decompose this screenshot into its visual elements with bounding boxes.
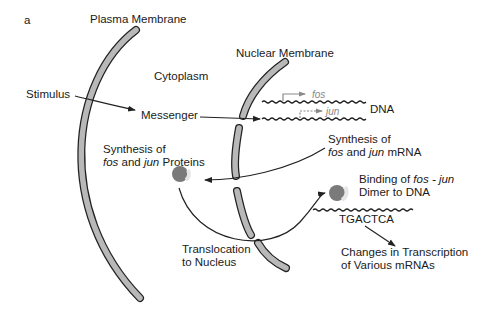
panel-label: a [24,14,30,27]
nuclear-membrane [235,62,286,268]
plasma-membrane-label: Plasma Membrane [90,13,187,26]
mrna-to-protein-arrow [205,148,325,180]
nuclear-membrane-label: Nuclear Membrane [236,47,334,60]
dna-label: DNA [370,103,394,116]
and-text: and [343,146,369,158]
translocation-line2: to Nucleus [182,256,251,269]
changes-arrow [365,226,395,246]
jun-gene-label: jun [326,105,339,118]
jun-text: jun [144,156,159,168]
fos-text: fos [103,156,118,168]
stimulus-label: Stimulus [26,88,70,101]
cytoplasm-label: Cytoplasm [154,70,208,83]
protein-synthesis-line1: Synthesis of [103,143,205,156]
and-text: and [118,156,144,168]
translocation-arrow [180,188,338,236]
fos-jun-text: fos - jun [413,173,454,185]
sequence-label: TGACTCA [339,213,394,226]
jun-text: jun [369,146,384,158]
fos-gene-label: fos [312,88,325,101]
fos-jun-signaling-diagram: a Plasma Membrane Nuclear Membrane Cytop… [0,0,483,320]
mrna-synthesis-line1: Synthesis of [328,133,421,146]
translocation-line1: Translocation [182,243,251,256]
protein-dimer [329,185,347,201]
mrna-text: mRNA [384,146,421,158]
mrna-synthesis-line2: fos and jun mRNA [328,146,421,159]
changes-line2: of Various mRNAs [341,259,468,272]
binding-prefix: Binding of [359,173,413,185]
changes-label: Changes in Transcription of Various mRNA… [341,246,468,272]
changes-line1: Changes in Transcription [341,246,468,259]
binding-label: Binding of fos - jun Dimer to DNA [359,173,454,199]
binding-line1: Binding of fos - jun [359,173,454,186]
fos-gene-arrow [283,94,305,101]
translocation-label: Translocation to Nucleus [182,243,251,269]
proteins-text: Proteins [159,156,204,168]
messenger-arrow [200,117,260,119]
target-dna-strand [313,209,413,211]
protein-synthesis-line2: fos and jun Proteins [103,156,205,169]
fos-text: fos [328,146,343,158]
jun-gene-arrow [300,111,322,118]
binding-line2: Dimer to DNA [359,186,454,199]
protein-synthesis-label: Synthesis of fos and jun Proteins [103,143,205,169]
mrna-synthesis-label: Synthesis of fos and jun mRNA [328,133,421,159]
messenger-label: Messenger [141,109,198,122]
